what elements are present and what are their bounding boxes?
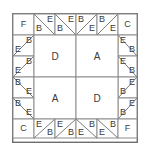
right-edge-4-lower-label: B: [120, 107, 126, 117]
left-edge-2-upper-label: B: [26, 56, 32, 66]
top-edge-2-upper-label: E: [68, 14, 74, 24]
left-edge-2-lower-label: E: [15, 65, 21, 75]
corner-bottom-right-label: F: [125, 123, 131, 133]
left-edge-3-upper-label: B: [15, 77, 21, 87]
corner-top-right-label: C: [124, 19, 131, 29]
left-edge-4-upper-label: B: [15, 98, 21, 108]
left-edge-3-lower-label: E: [26, 86, 32, 96]
top-edge-3-upper-label: B: [78, 14, 84, 24]
top-edge-1-lower-label: B: [36, 23, 42, 33]
bottom-edge-2-upper-label: E: [57, 119, 63, 129]
top-edge-2-lower-label: B: [57, 23, 63, 33]
bottom-edge-2-lower-label: B: [68, 127, 74, 137]
right-edge-1-upper-label: E: [120, 35, 126, 45]
left-edge-4-lower-label: E: [26, 107, 32, 117]
bottom-edge-3-lower-label: E: [78, 127, 84, 137]
right-edge-2-lower-label: B: [129, 65, 135, 75]
right-edge-3-upper-label: E: [129, 77, 135, 87]
center-top-left-label: D: [51, 51, 58, 62]
right-edge-3-lower-label: B: [120, 86, 126, 96]
quilt-block-diagram: F B E B E B E B E C B E B E: [12, 13, 138, 143]
right-edge-4-upper-label: E: [129, 98, 135, 108]
top-edge-4-upper-label: B: [99, 14, 105, 24]
center-bottom-right-label: D: [93, 93, 100, 104]
corner-bottom-left-label: C: [20, 123, 27, 133]
center-bottom-left-label: A: [52, 93, 59, 104]
bottom-edge-4-upper-label: B: [110, 119, 116, 129]
center-top-right-label: A: [94, 51, 101, 62]
bottom-edge-4-lower-label: E: [99, 127, 105, 137]
top-edge-1-upper-label: E: [47, 14, 53, 24]
bottom-edge-1-lower-label: B: [47, 127, 53, 137]
bottom-edge-3-upper-label: B: [89, 119, 95, 129]
corner-top-left-label: F: [21, 19, 27, 29]
right-edge-1-lower-label: B: [129, 44, 135, 54]
left-edge-1-lower-label: E: [15, 44, 21, 54]
right-edge-2-upper-label: E: [120, 56, 126, 66]
left-edge-1-upper-label: B: [26, 35, 32, 45]
top-edge-4-lower-label: E: [110, 23, 116, 33]
bottom-edge-1-upper-label: E: [36, 119, 42, 129]
top-edge-3-lower-label: E: [89, 23, 95, 33]
